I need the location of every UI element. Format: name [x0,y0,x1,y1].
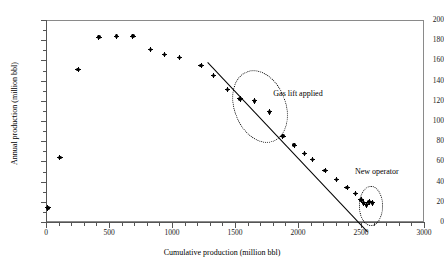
y-minor-tick [43,172,46,173]
y-minor-tick [43,131,46,132]
y-tick [41,161,46,162]
x-minor-tick [147,223,148,226]
x-minor-tick [185,223,186,226]
y-tick [41,101,46,102]
x-minor-tick [59,223,60,226]
x-minor-tick [197,223,198,226]
y-tick-label: 140 [406,77,444,85]
x-minor-tick [96,223,97,226]
y-minor-tick [43,192,46,193]
x-minor-tick [134,223,135,226]
x-tick-label: 1500 [215,229,255,237]
data-point [303,152,307,156]
y-tick [41,20,46,21]
y-tick-label: 40 [406,178,444,186]
data-point [131,34,135,38]
y-tick [41,141,46,142]
y-minor-tick [43,71,46,72]
x-minor-tick [122,223,123,226]
new-operator-ellipse [359,186,384,226]
x-minor-tick [222,223,223,226]
y-tick-label: 160 [406,56,444,64]
x-tick-label: 0 [26,229,66,237]
y-minor-tick [43,111,46,112]
x-minor-tick [386,223,387,226]
data-point [46,206,50,210]
y-tick-label: 120 [406,97,444,105]
x-minor-tick [248,223,249,226]
chart-figure: 0204060801001201401601802000500100015002… [0,0,444,278]
y-tick-label: 60 [406,157,444,165]
y-tick-label: 100 [406,117,444,125]
x-minor-tick [348,223,349,226]
x-axis-title: Cumulative production (million bbl) [0,248,444,257]
x-minor-tick [210,223,211,226]
y-minor-tick [43,212,46,213]
y-minor-tick [43,91,46,92]
y-tick [41,60,46,61]
y-tick [41,40,46,41]
y-tick-label: 180 [406,36,444,44]
data-point [199,64,203,68]
data-point [292,143,296,147]
x-minor-tick [399,223,400,226]
x-minor-tick [336,223,337,226]
x-tick-label: 3000 [404,229,444,237]
x-tick-label: 500 [89,229,129,237]
x-minor-tick [311,223,312,226]
data-point [97,35,101,39]
y-tick [41,202,46,203]
x-minor-tick [273,223,274,226]
x-minor-tick [285,223,286,226]
y-tick-label: 80 [406,137,444,145]
x-minor-tick [84,223,85,226]
x-minor-tick [71,223,72,226]
x-minor-tick [411,223,412,226]
x-minor-tick [260,223,261,226]
y-tick [41,182,46,183]
y-tick-label: 200 [406,16,444,24]
x-tick-label: 2000 [278,229,318,237]
y-axis-title: Annual production (million bbl) [10,14,19,214]
y-axis-spine [46,20,47,223]
x-tick-label: 1000 [152,229,192,237]
new-operator-label: New operator [355,167,399,176]
gas-lift-applied-label: Gas lift applied [273,89,322,98]
y-minor-tick [43,50,46,51]
y-minor-tick [43,151,46,152]
x-minor-tick [159,223,160,226]
y-tick [41,81,46,82]
y-minor-tick [43,30,46,31]
x-minor-tick [323,223,324,226]
x-tick-label: 2500 [341,229,381,237]
data-point [58,156,62,160]
y-tick-label: 20 [406,198,444,206]
y-tick [41,121,46,122]
